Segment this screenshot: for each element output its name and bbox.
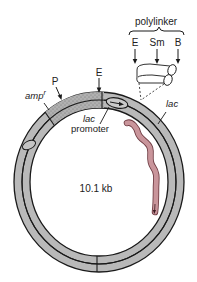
- polylinker-label: polylinker: [135, 16, 178, 27]
- ecori-site-arrow: [97, 78, 102, 93]
- polylinker-site-sm-label: Sm: [150, 37, 165, 48]
- polylinker-brace: [129, 27, 184, 35]
- ampr-leader: [44, 103, 49, 110]
- plasmid-size-label: 10.1 kb: [80, 183, 113, 194]
- psti-site-label: P: [52, 76, 59, 87]
- polylinker-site-b-label: B: [175, 37, 182, 48]
- polylinker-cylinder: [137, 63, 178, 100]
- polylinker-site-e-label: E: [132, 37, 139, 48]
- lac-promoter-label-line2: promoter: [71, 123, 109, 134]
- ampr-gene-label: ampr: [25, 89, 46, 101]
- lac-gene-label: lac: [166, 98, 178, 109]
- polylinker-site-arrows: [133, 49, 181, 64]
- psti-site-arrow: [56, 87, 62, 100]
- ecori-site-label: E: [96, 67, 103, 78]
- plasmid-diagram: polylinker E Sm B E P ampr lac lac promo…: [0, 0, 197, 282]
